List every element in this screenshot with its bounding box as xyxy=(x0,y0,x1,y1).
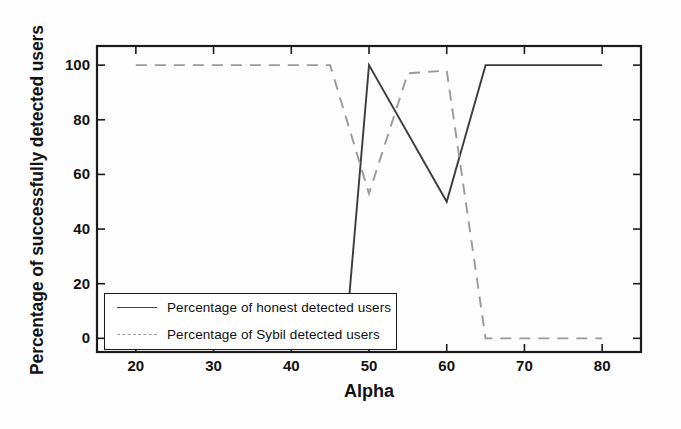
x-axis-title: Alpha xyxy=(97,381,641,402)
y-tick-label: 60 xyxy=(44,166,90,182)
legend-label-sybil: Percentage of Sybil detected users xyxy=(167,327,380,342)
legend-item-sybil: Percentage of Sybil detected users xyxy=(105,321,396,348)
legend-line-icon-dashed xyxy=(115,328,159,342)
chart-legend: Percentage of honest detected users Perc… xyxy=(104,293,397,350)
y-tick-label: 100 xyxy=(44,57,90,73)
chart-figure: Percentage of successfully detected user… xyxy=(0,0,681,429)
x-tick-label: 60 xyxy=(427,357,467,374)
x-tick-label: 40 xyxy=(271,357,311,374)
y-tick-label: 80 xyxy=(44,112,90,128)
legend-line-icon-solid xyxy=(115,301,159,315)
x-tick-label: 30 xyxy=(194,357,234,374)
x-tick-label: 50 xyxy=(349,357,389,374)
plot-area xyxy=(0,0,681,429)
x-tick-label: 20 xyxy=(116,357,156,374)
y-tick-label: 20 xyxy=(44,276,90,292)
y-tick-label: 0 xyxy=(44,330,90,346)
x-tick-label: 80 xyxy=(582,357,622,374)
x-tick-label: 70 xyxy=(504,357,544,374)
y-tick-label: 40 xyxy=(44,221,90,237)
legend-label-honest: Percentage of honest detected users xyxy=(167,300,391,315)
legend-item-honest: Percentage of honest detected users xyxy=(105,294,396,321)
